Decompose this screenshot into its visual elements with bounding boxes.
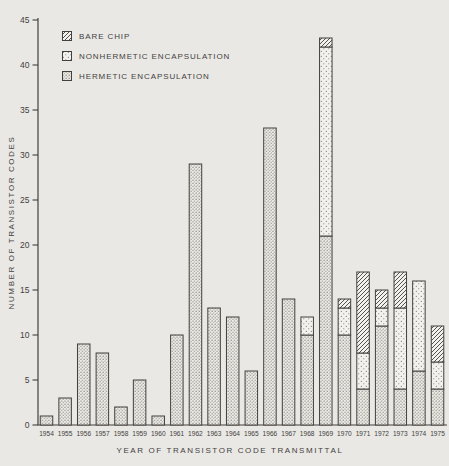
bar-1973-segment — [394, 389, 407, 425]
bar-1968-segment — [301, 335, 314, 425]
bar-1957-segment — [96, 353, 109, 425]
bar-1975-segment — [431, 389, 444, 425]
x-tick-label: 1963 — [207, 430, 222, 437]
x-tick-label: 1965 — [244, 430, 259, 437]
nonhermetic-swatch-icon — [62, 51, 72, 61]
bar-1970-segment — [338, 308, 351, 335]
bare-chip-swatch-icon — [62, 31, 72, 41]
legend-label-hermetic: HERMETIC ENCAPSULATION — [79, 72, 210, 81]
legend-item-nonhermetic: NONHERMETIC ENCAPSULATION — [62, 51, 230, 61]
x-tick-label: 1966 — [263, 430, 278, 437]
x-tick-label: 1973 — [393, 430, 408, 437]
y-axis-title: NUMBER OF TRANSISTOR CODES — [7, 123, 18, 323]
bar-1964-segment — [226, 317, 239, 425]
bar-1969-segment — [320, 47, 333, 236]
bar-1956-segment — [77, 344, 90, 425]
bar-1969-segment — [320, 38, 333, 47]
hermetic-swatch-icon — [62, 71, 72, 81]
bar-1973-segment — [394, 308, 407, 389]
x-tick-label: 1958 — [114, 430, 129, 437]
bar-1965-segment — [245, 371, 258, 425]
x-tick-label: 1956 — [76, 430, 91, 437]
bar-1955-segment — [59, 398, 71, 425]
bar-1973-segment — [394, 272, 407, 308]
x-tick-label: 1964 — [225, 430, 240, 437]
bar-1970-segment — [338, 335, 351, 425]
y-tick-label: 30 — [20, 150, 30, 160]
bar-1967-segment — [282, 299, 295, 425]
bar-1970-segment — [338, 299, 351, 308]
x-tick-label: 1959 — [132, 430, 147, 437]
legend-label-nonhermetic: NONHERMETIC ENCAPSULATION — [79, 52, 230, 61]
x-tick-label: 1957 — [95, 430, 110, 437]
legend: BARE CHIP NONHERMETIC ENCAPSULATION HERM… — [62, 31, 230, 81]
bar-1971-segment — [357, 353, 370, 389]
transistor-codes-figure: 0510152025303540451954195519561957195819… — [0, 0, 449, 466]
y-tick-label: 20 — [20, 240, 30, 250]
bar-1971-segment — [357, 272, 370, 353]
bar-1958-segment — [115, 407, 128, 425]
bar-1974-segment — [413, 281, 426, 371]
x-tick-label: 1962 — [188, 430, 203, 437]
x-tick-label: 1974 — [412, 430, 427, 437]
bar-1972-segment — [375, 326, 388, 425]
bar-1963-segment — [208, 308, 221, 425]
x-tick-label: 1970 — [337, 430, 352, 437]
y-tick-label: 35 — [20, 105, 30, 115]
bar-1959-segment — [133, 380, 146, 425]
x-tick-label: 1971 — [356, 430, 371, 437]
x-tick-label: 1975 — [430, 430, 445, 437]
x-tick-label: 1972 — [374, 430, 389, 437]
bar-1954-segment — [40, 416, 53, 425]
x-tick-label: 1960 — [151, 430, 166, 437]
bar-1974-segment — [413, 371, 426, 425]
x-tick-label: 1955 — [58, 430, 73, 437]
bar-1969-segment — [320, 236, 333, 425]
y-tick-label: 10 — [20, 330, 30, 340]
x-tick-label: 1967 — [281, 430, 296, 437]
y-tick-label: 0 — [25, 420, 30, 430]
y-tick-label: 15 — [20, 285, 30, 295]
y-tick-label: 5 — [25, 375, 30, 385]
y-tick-label: 25 — [20, 195, 30, 205]
y-tick-label: 40 — [20, 60, 30, 70]
bar-1962-segment — [189, 164, 202, 425]
bar-1968-segment — [301, 317, 314, 335]
legend-item-bare-chip: BARE CHIP — [62, 31, 230, 41]
bar-1961-segment — [171, 335, 184, 425]
bar-1972-segment — [375, 308, 388, 326]
bar-1972-segment — [375, 290, 388, 308]
bar-1971-segment — [357, 389, 370, 425]
x-tick-label: 1954 — [39, 430, 54, 437]
bar-1975-segment — [431, 326, 444, 362]
y-tick-label: 45 — [20, 15, 30, 25]
legend-label-bare-chip: BARE CHIP — [79, 32, 130, 41]
bar-1960-segment — [152, 416, 165, 425]
x-tick-label: 1968 — [300, 430, 315, 437]
bar-1975-segment — [431, 362, 444, 389]
x-tick-label: 1961 — [170, 430, 185, 437]
bar-1966-segment — [264, 128, 277, 425]
x-axis-title: YEAR OF TRANSISTOR CODE TRANSMITTAL — [30, 446, 430, 455]
legend-item-hermetic: HERMETIC ENCAPSULATION — [62, 71, 230, 81]
x-tick-label: 1969 — [318, 430, 333, 437]
